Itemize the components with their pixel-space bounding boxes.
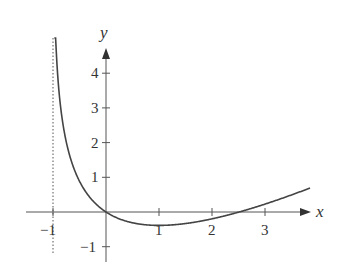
x-axis-label: x (315, 202, 324, 221)
y-tick-label: 1 (91, 169, 99, 185)
x-tick-label: 1 (155, 222, 163, 238)
x-tick-label: 2 (208, 222, 216, 238)
y-axis-arrow-icon (102, 48, 110, 59)
x-tick-label: 3 (261, 222, 269, 238)
function-graph: −1123 4321−1 x y (0, 0, 341, 270)
x-axis-arrow-icon (300, 208, 311, 216)
y-tick-label: 3 (91, 100, 99, 116)
y-tick-label: 4 (91, 65, 99, 81)
y-tick-label: −1 (80, 239, 96, 255)
x-tick-label: −1 (40, 222, 56, 238)
y-tick-label: 2 (91, 135, 99, 151)
y-axis-label: y (98, 23, 108, 42)
